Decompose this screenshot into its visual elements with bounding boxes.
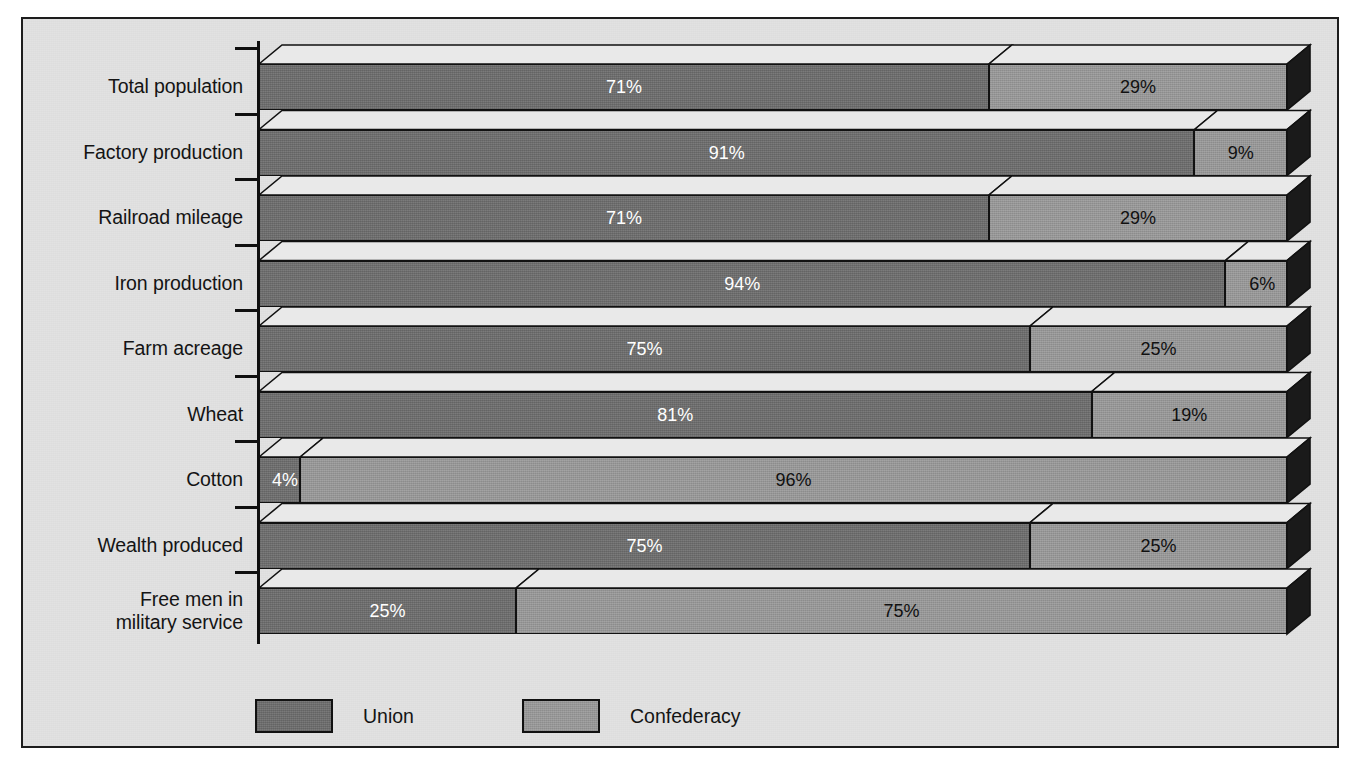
bar-value-union: 25%	[369, 601, 405, 622]
legend-item-union[interactable]: Union	[255, 699, 414, 733]
bar-value-union: 71%	[606, 77, 642, 98]
bar-row: 91%9%	[259, 130, 1287, 176]
bar-value-confederacy: 9%	[1228, 142, 1254, 163]
bar-value-confederacy: 29%	[1120, 208, 1156, 229]
category-label: Farm acreage	[123, 337, 243, 360]
bar-row: 75%25%	[259, 326, 1287, 372]
y-axis-tick	[235, 506, 259, 509]
legend-swatch-confederacy	[522, 699, 600, 733]
bar-row: 71%29%	[259, 195, 1287, 241]
bar-value-confederacy: 96%	[776, 470, 812, 491]
bar-value-confederacy: 75%	[883, 601, 919, 622]
bar-value-confederacy: 25%	[1140, 339, 1176, 360]
bar-value-union: 94%	[724, 273, 760, 294]
bar-row: 75%25%	[259, 523, 1287, 569]
bar-value-confederacy: 19%	[1171, 404, 1207, 425]
category-label: Wealth produced	[97, 534, 243, 557]
category-label: Cotton	[186, 468, 243, 491]
y-axis-tick	[235, 440, 259, 443]
bar-row: 71%29%	[259, 64, 1287, 110]
bar-row: 25%75%	[259, 588, 1287, 634]
bar-value-confederacy: 25%	[1140, 535, 1176, 556]
bar-value-union: 91%	[709, 142, 745, 163]
bar-row: 4%96%	[259, 457, 1287, 503]
legend-label-confederacy: Confederacy	[630, 705, 741, 728]
bar-row: 94%6%	[259, 261, 1287, 307]
legend-swatch-union	[255, 699, 333, 733]
bar-value-confederacy: 6%	[1249, 273, 1275, 294]
y-axis-tick	[235, 571, 259, 574]
y-axis-tick	[235, 113, 259, 116]
bar-value-union: 4%	[272, 470, 298, 491]
category-label: Factory production	[83, 141, 243, 164]
category-label: Railroad mileage	[98, 206, 243, 229]
legend-label-union: Union	[363, 705, 414, 728]
bar-3d-faces	[23, 19, 1337, 746]
chart-figure: Total population71%29%Factory production…	[21, 17, 1339, 748]
category-label: Free men in military service	[116, 588, 243, 634]
plot-area: Total population71%29%Factory production…	[23, 19, 1337, 746]
category-label: Wheat	[187, 403, 243, 426]
bar-row: 81%19%	[259, 392, 1287, 438]
y-axis-tick	[235, 244, 259, 247]
chart-legend: Union Confederacy	[255, 697, 849, 735]
bar-value-union: 71%	[606, 208, 642, 229]
bar-value-union: 75%	[626, 535, 662, 556]
bar-value-union: 81%	[657, 404, 693, 425]
category-label: Iron production	[114, 272, 243, 295]
bar-value-union: 75%	[626, 339, 662, 360]
y-axis-tick	[235, 178, 259, 181]
bar-value-confederacy: 29%	[1120, 77, 1156, 98]
y-axis-tick	[235, 375, 259, 378]
category-label: Total population	[108, 75, 243, 98]
y-axis-tick	[235, 47, 259, 50]
y-axis-tick	[235, 309, 259, 312]
legend-item-confederacy[interactable]: Confederacy	[522, 699, 741, 733]
